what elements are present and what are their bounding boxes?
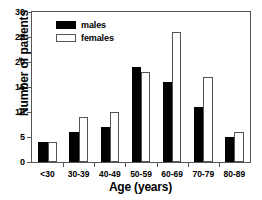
x-tick-label: 30-39 [68, 169, 90, 179]
plot-area: 051015202530 <3030-3940-4950-5960-6970-7… [31, 11, 251, 163]
legend-label-females: females [81, 33, 114, 43]
legend-item-females: females [56, 32, 114, 43]
y-tick-mark [27, 112, 32, 113]
bar-males-50-59 [132, 67, 141, 162]
bar-females-40-49 [110, 112, 119, 162]
legend-swatch-females-icon [56, 34, 76, 42]
x-tick-mark [188, 162, 189, 167]
bar-males-30-39 [69, 132, 78, 162]
y-tick-mark [27, 87, 32, 88]
bar-males-<30 [38, 142, 47, 162]
legend-item-males: males [56, 19, 114, 30]
bar-females-70-79 [203, 77, 212, 162]
bar-females-<30 [48, 142, 57, 162]
bar-females-50-59 [141, 72, 150, 162]
bar-males-70-79 [194, 107, 203, 162]
y-tick-mark [27, 162, 32, 163]
x-axis-title: Age (years) [30, 180, 251, 194]
y-tick-label: 0 [20, 157, 25, 167]
y-tick-label: 30 [15, 7, 25, 17]
bar-males-60-69 [163, 82, 172, 162]
x-tick-mark [63, 162, 64, 167]
x-tick-mark [157, 162, 158, 167]
chart-legend: males females [56, 19, 114, 45]
x-tick-label: 70-79 [192, 169, 214, 179]
legend-label-males: males [81, 20, 106, 30]
y-tick-label: 25 [15, 32, 25, 42]
bar-females-60-69 [172, 32, 181, 162]
x-tick-label: 40-49 [99, 169, 121, 179]
y-tick-mark [27, 62, 32, 63]
y-tick-mark [27, 37, 32, 38]
x-tick-mark [94, 162, 95, 167]
y-tick-mark [27, 137, 32, 138]
x-tick-mark [125, 162, 126, 167]
bar-females-30-39 [79, 117, 88, 162]
y-tick-mark [27, 12, 32, 13]
y-tick-label: 10 [15, 107, 25, 117]
bar-females-80-89 [234, 132, 243, 162]
bar-males-40-49 [101, 127, 110, 162]
x-tick-mark [219, 162, 220, 167]
bar-males-80-89 [225, 137, 234, 162]
bar-chart-figure: Number of patients 051015202530 <3030-39… [0, 0, 262, 200]
legend-swatch-males-icon [56, 21, 76, 29]
x-tick-label: <30 [40, 169, 54, 179]
y-tick-label: 5 [20, 132, 25, 142]
x-tick-label: 50-59 [130, 169, 152, 179]
y-tick-label: 20 [15, 57, 25, 67]
x-tick-label: 60-69 [161, 169, 183, 179]
y-tick-label: 15 [15, 82, 25, 92]
x-tick-label: 80-89 [224, 169, 246, 179]
